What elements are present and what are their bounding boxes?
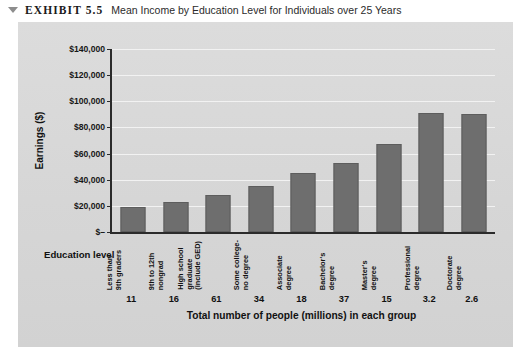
bar-slot: [452, 49, 495, 232]
population-count: 15: [365, 294, 408, 304]
category-label-line: nongrad: [157, 253, 166, 290]
bar-slot: [325, 49, 368, 232]
y-axis-tick: [107, 232, 112, 233]
bar[interactable]: [334, 163, 359, 232]
category-label-line: Professional: [403, 246, 412, 290]
category-label-text: Bachelor'sdegree: [318, 253, 335, 291]
x-axis-category-labels: Less than9th graders9th to 12thnongradHi…: [110, 234, 493, 292]
category-label: Doctoratedegree: [450, 234, 493, 292]
bar[interactable]: [206, 195, 231, 232]
chart-panel: Earnings ($) $–$20,000$40,000$60,000$80,…: [18, 22, 513, 347]
category-label: Associatedegree: [280, 234, 323, 292]
bar-series: [112, 49, 495, 232]
population-count: 61: [195, 294, 238, 304]
bar[interactable]: [291, 173, 316, 232]
y-axis-tick-label: $40,000: [74, 175, 105, 185]
y-axis-tick-label: $–: [95, 227, 105, 237]
bar-slot: [240, 49, 283, 232]
exhibit-caption: EXHIBIT 5.5 Mean Income by Education Lev…: [0, 0, 526, 20]
collapse-triangle-icon[interactable]: [8, 7, 18, 13]
bar-slot: [197, 49, 240, 232]
population-counts-row: 111661341837153.22.6: [110, 294, 493, 308]
category-label-line: degree: [455, 256, 464, 291]
category-label-line: no degree: [242, 240, 251, 290]
y-axis-tick-label: $80,000: [74, 122, 105, 132]
population-count: 3.2: [408, 294, 451, 304]
bar-slot: [282, 49, 325, 232]
bar[interactable]: [419, 113, 444, 232]
category-label-line: degree: [284, 255, 293, 290]
plot-area: $–$20,000$40,000$60,000$80,000$100,000$1…: [110, 49, 495, 234]
bar[interactable]: [163, 202, 188, 232]
category-label-text: Master'sdegree: [361, 260, 378, 290]
category-label: Some college-no degree: [238, 234, 281, 292]
category-label-line: Bachelor's: [318, 253, 327, 291]
category-label-text: Associatedegree: [276, 255, 293, 290]
y-axis-title-text: Earnings ($): [35, 112, 46, 170]
category-label-line: degree: [370, 260, 379, 290]
category-label-text: Doctoratedegree: [446, 256, 463, 291]
population-count: 34: [238, 294, 281, 304]
bar[interactable]: [248, 186, 273, 232]
y-axis-tick-label: $120,000: [69, 70, 105, 80]
category-label-line: degree: [412, 246, 421, 290]
education-level-label: Education level: [44, 249, 114, 260]
x-axis-title: Total number of people (millions) in eac…: [110, 310, 493, 321]
y-axis-tick-label: $20,000: [74, 201, 105, 211]
y-axis-tick-label: $100,000: [69, 96, 105, 106]
population-count: 11: [110, 294, 153, 304]
exhibit-title: Mean Income by Education Level for Indiv…: [111, 4, 401, 16]
category-label-text: Professionaldegree: [403, 246, 420, 290]
category-label-line: 9th graders: [114, 250, 123, 290]
category-label-text: Some college-no degree: [233, 240, 250, 290]
category-label-text: High schoolgraduate(include GED): [178, 241, 204, 290]
population-count: 37: [323, 294, 366, 304]
bar-slot: [112, 49, 155, 232]
bar-slot: [410, 49, 453, 232]
bar[interactable]: [376, 144, 401, 232]
y-axis-tick-label: $140,000: [69, 44, 105, 54]
exhibit-number: EXHIBIT 5.5: [25, 4, 103, 16]
category-label-text: 9th to 12thnongrad: [148, 253, 165, 290]
population-count: 16: [153, 294, 196, 304]
bar[interactable]: [121, 207, 146, 232]
bar-slot: [155, 49, 198, 232]
y-axis-title: Earnings ($): [32, 49, 48, 232]
population-count: 2.6: [450, 294, 493, 304]
bar[interactable]: [461, 114, 486, 232]
bar-slot: [367, 49, 410, 232]
category-label-line: degree: [327, 253, 336, 291]
category-label-line: (include GED): [195, 241, 204, 290]
y-axis-tick-label: $60,000: [74, 149, 105, 159]
category-label: Master'sdegree: [365, 234, 408, 292]
population-count: 18: [280, 294, 323, 304]
